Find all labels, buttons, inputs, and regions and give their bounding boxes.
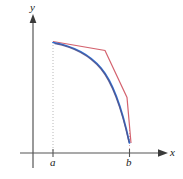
up-arrow-icon [30, 14, 37, 23]
tick-label-b: b [126, 157, 132, 168]
tick-label-a: a [50, 157, 56, 168]
right-arrow-icon [158, 149, 168, 157]
x-axis-label: x [170, 147, 175, 158]
polygonal-approximation-path [53, 42, 131, 144]
y-axis-label: y [30, 2, 35, 13]
smooth-curve-path [53, 43, 130, 144]
figure-canvas [0, 0, 183, 179]
math-figure-arc-length: y x a b [0, 0, 183, 179]
